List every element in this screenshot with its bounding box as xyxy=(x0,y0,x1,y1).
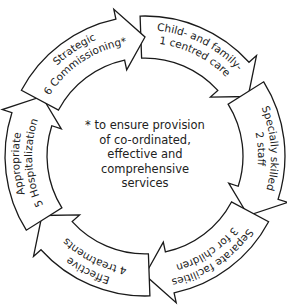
cycle-step-4: Effective4 treatments xyxy=(34,215,150,296)
cycle-step-2: Specially skilled2 staff xyxy=(228,82,287,216)
center-note: * to ensure provision of co-ordinated, e… xyxy=(80,118,210,191)
center-note-line: effective and xyxy=(80,147,210,162)
center-note-line: of co-ordinated, xyxy=(80,133,210,148)
cycle-step-6: Strategic6 Commissioning* xyxy=(21,9,145,110)
cycle-step-1: Child- and family-1 centred care xyxy=(140,16,256,97)
cycle-step-5: Appropriate5 Hospitalization xyxy=(2,97,62,231)
center-note-line: services xyxy=(80,176,210,191)
center-note-line: comprehensive xyxy=(80,162,210,177)
cycle-step-3: Separate facilities3 for children xyxy=(145,202,269,303)
center-note-line: * to ensure provision xyxy=(80,118,210,133)
